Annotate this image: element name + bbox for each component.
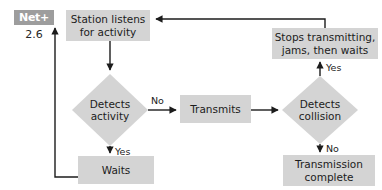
flowchart-figure: Net+ 2.6 [0, 0, 382, 190]
edge-label-activity-no: No [151, 95, 164, 106]
node-stops-transmitting [272, 28, 378, 59]
edge-label-collision-yes: Yes [326, 62, 341, 73]
node-transmission-complete [283, 155, 375, 186]
node-transmits [180, 95, 251, 123]
node-waits [78, 156, 154, 184]
node-station-listens [66, 10, 150, 41]
edge-label-collision-no: No [326, 143, 339, 154]
node-detects-collision [282, 76, 358, 144]
flowchart-canvas [0, 0, 382, 190]
edge-waits-to-listens [55, 28, 78, 177]
edge-stops-to-listens [156, 19, 325, 28]
edge-label-activity-yes: Yes [115, 146, 130, 157]
node-detects-activity [72, 74, 148, 146]
